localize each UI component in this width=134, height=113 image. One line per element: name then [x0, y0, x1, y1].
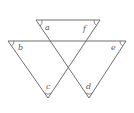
angle-arc-a [40, 20, 42, 26]
angle-label-c: c [46, 82, 51, 91]
angle-arc-b [12, 41, 15, 46]
angle-label-a: a [45, 23, 50, 32]
right-triangle-side [89, 41, 126, 98]
angle-arc-d [86, 93, 93, 94]
angle-arc-f [94, 20, 97, 26]
angle-label-f: f [82, 24, 88, 33]
left-triangle-side [8, 41, 48, 98]
diagonal-d-to-a [36, 20, 89, 98]
triangle-angle-diagram: a f b e c d [0, 0, 134, 113]
angle-arc-c [45, 93, 52, 94]
angle-label-d: d [86, 82, 91, 91]
angle-arc-e [120, 41, 123, 46]
angle-label-e: e [111, 43, 116, 52]
diagonal-c-to-f [48, 20, 100, 98]
angle-label-b: b [18, 43, 23, 52]
